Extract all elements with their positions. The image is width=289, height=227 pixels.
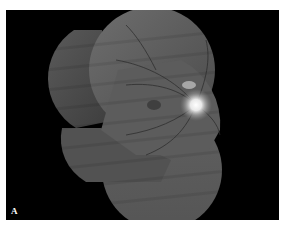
panel-label: A: [11, 207, 18, 216]
fundus-montage-image: [6, 10, 279, 220]
fundus-montage-figure: A: [6, 10, 279, 220]
optic-disc: [180, 89, 212, 121]
macula: [147, 100, 161, 110]
